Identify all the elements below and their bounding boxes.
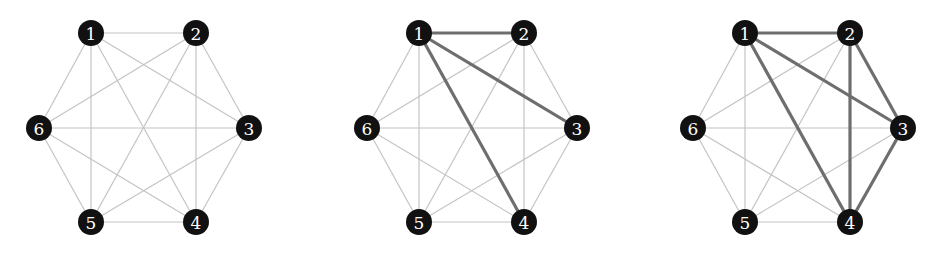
node-2: 2 <box>183 20 209 46</box>
edge-1-6 <box>39 33 91 128</box>
node-4: 4 <box>837 209 863 235</box>
node-1: 1 <box>78 20 104 46</box>
node-label: 5 <box>414 213 425 233</box>
highlighted-edge-1-3 <box>745 33 903 128</box>
node-4: 4 <box>511 209 537 235</box>
node-5: 5 <box>78 209 104 235</box>
node-label: 2 <box>845 24 856 44</box>
node-label: 4 <box>519 213 530 233</box>
node-label: 1 <box>414 24 425 44</box>
node-label: 6 <box>34 119 45 139</box>
edge-3-4 <box>196 128 249 222</box>
edge-4-6 <box>39 128 196 222</box>
edge-5-6 <box>693 128 745 222</box>
edge-2-6 <box>39 33 196 128</box>
node-label: 6 <box>688 119 699 139</box>
node-label: 3 <box>244 119 255 139</box>
edge-4-6 <box>367 128 524 222</box>
node-3: 3 <box>236 115 262 141</box>
panel-1: 123456 <box>26 20 262 235</box>
panel-3: 123456 <box>680 20 916 235</box>
node-6: 6 <box>26 115 52 141</box>
node-1: 1 <box>732 20 758 46</box>
node-label: 3 <box>898 119 909 139</box>
node-2: 2 <box>511 20 537 46</box>
edge-5-6 <box>39 128 91 222</box>
node-3: 3 <box>564 115 590 141</box>
node-1: 1 <box>406 20 432 46</box>
node-label: 5 <box>740 213 751 233</box>
node-6: 6 <box>680 115 706 141</box>
highlighted-edge-3-4 <box>850 128 903 222</box>
node-label: 6 <box>362 119 373 139</box>
node-label: 1 <box>86 24 97 44</box>
edge-1-6 <box>367 33 419 128</box>
graph-diagram: 123456123456123456 <box>0 0 939 261</box>
node-5: 5 <box>732 209 758 235</box>
edge-5-6 <box>367 128 419 222</box>
node-label: 4 <box>845 213 856 233</box>
node-3: 3 <box>890 115 916 141</box>
node-label: 2 <box>191 24 202 44</box>
edge-3-4 <box>524 128 577 222</box>
node-2: 2 <box>837 20 863 46</box>
edge-3-5 <box>91 128 249 222</box>
edge-2-3 <box>196 33 249 128</box>
edge-1-6 <box>693 33 745 128</box>
edge-4-6 <box>693 128 850 222</box>
node-6: 6 <box>354 115 380 141</box>
node-5: 5 <box>406 209 432 235</box>
highlighted-edge-1-3 <box>419 33 577 128</box>
node-label: 1 <box>740 24 751 44</box>
node-label: 4 <box>191 213 202 233</box>
node-label: 3 <box>572 119 583 139</box>
node-4: 4 <box>183 209 209 235</box>
node-label: 5 <box>86 213 97 233</box>
node-label: 2 <box>519 24 530 44</box>
panel-2: 123456 <box>354 20 590 235</box>
